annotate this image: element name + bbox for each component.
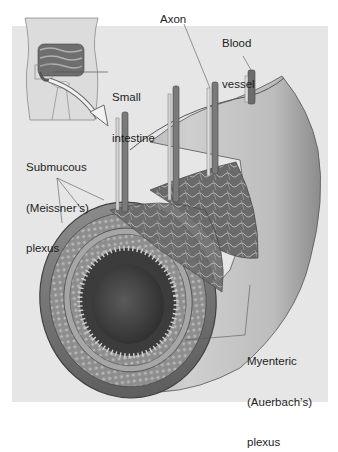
label-blood-vessel: Blood vessel — [222, 10, 255, 105]
label-line: Small — [112, 91, 155, 105]
label-submucous-plexus: Submucous (Meissner’s) plexus — [26, 134, 89, 269]
inset-body-figure — [25, 18, 108, 120]
label-line: intestine — [112, 132, 155, 146]
label-line: (Auerbach’s) — [247, 396, 312, 410]
label-axon: Axon — [160, 13, 186, 27]
label-line: plexus — [26, 242, 89, 256]
label-line: Submucous — [26, 161, 89, 175]
axon-leader — [184, 24, 210, 88]
axon-column — [212, 82, 218, 174]
label-line: Blood — [222, 37, 255, 51]
label-line: Myenteric — [247, 355, 312, 369]
inset-intestines — [38, 44, 84, 80]
label-small-intestine: Small intestine — [112, 64, 155, 159]
label-line: vessel — [222, 78, 255, 92]
label-line: plexus — [247, 436, 312, 450]
label-line: (Meissner’s) — [26, 202, 89, 216]
label-myenteric-plexus: Myenteric (Auerbach’s) plexus — [247, 328, 312, 452]
